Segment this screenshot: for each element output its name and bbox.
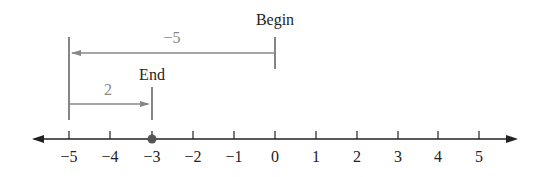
tick-label: −1 bbox=[225, 149, 242, 165]
tick-label: 2 bbox=[353, 149, 361, 165]
tick-label: −4 bbox=[101, 149, 118, 165]
arrow-minus5-head-icon bbox=[71, 50, 81, 56]
arrow-minus5-label: −5 bbox=[163, 30, 180, 46]
left-arrowhead-icon bbox=[32, 135, 44, 143]
tick-label: 4 bbox=[434, 149, 442, 165]
right-arrowhead-icon bbox=[506, 135, 518, 143]
tick-label: −5 bbox=[60, 149, 77, 165]
arrow-2-label: 2 bbox=[104, 82, 112, 98]
point-marker bbox=[148, 135, 157, 144]
arrow-2-head-icon bbox=[140, 101, 150, 107]
end-label: End bbox=[139, 67, 165, 83]
tick-label: 1 bbox=[312, 149, 320, 165]
tick-label: −2 bbox=[184, 149, 201, 165]
tick-label: 5 bbox=[475, 149, 483, 165]
tick-label: 0 bbox=[271, 149, 279, 165]
begin-label: Begin bbox=[256, 12, 294, 28]
axis-ticks bbox=[69, 131, 479, 139]
tick-label: −3 bbox=[143, 149, 160, 165]
tick-label: 3 bbox=[394, 149, 402, 165]
